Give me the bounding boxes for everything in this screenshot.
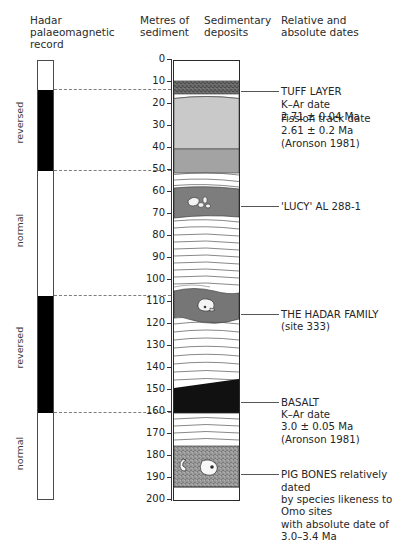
sediment-column bbox=[173, 60, 240, 501]
strata-graphic bbox=[174, 61, 239, 500]
polarity-label-normal-3: normal bbox=[2, 448, 36, 459]
leader-line-tuff-layer bbox=[241, 91, 279, 92]
header-metres: Metres of sediment bbox=[140, 14, 202, 38]
tick-label: 100 bbox=[146, 273, 165, 284]
header-palaeomagnetic: Hadar palaeomagnetic record bbox=[30, 14, 135, 51]
tick-label: 120 bbox=[146, 317, 165, 328]
header-sedimentary: Sedimentary deposits bbox=[204, 14, 274, 38]
polarity-label-reversed-0: reversed bbox=[2, 121, 36, 132]
tick-label: 40 bbox=[152, 141, 165, 152]
annotation-basalt: BASALT K–Ar date 3.0 ± 0.05 Ma (Aronson … bbox=[281, 397, 411, 447]
polarity-band-reversed bbox=[38, 90, 53, 171]
leader-line-basalt bbox=[241, 402, 279, 403]
header-dates: Relative and absolute dates bbox=[281, 14, 406, 38]
tick-label: 110 bbox=[146, 295, 165, 306]
tick-label: 140 bbox=[146, 361, 165, 372]
tick-label: 130 bbox=[146, 339, 165, 350]
tick-label: 160 bbox=[146, 405, 165, 416]
tick-label: 80 bbox=[152, 229, 165, 240]
tick-label: 200 bbox=[146, 493, 165, 504]
leader-line-hadar-family bbox=[241, 314, 279, 315]
tick-label: 170 bbox=[146, 427, 165, 438]
tick-label: 0 bbox=[159, 53, 165, 64]
tick-label: 30 bbox=[152, 119, 165, 130]
polarity-band-reversed bbox=[38, 296, 53, 413]
leader-line-lucy bbox=[241, 206, 279, 207]
tick-label: 150 bbox=[146, 383, 165, 394]
annotation-lucy: 'LUCY' AL 288-1 bbox=[281, 201, 411, 213]
leader-line-pig-bones bbox=[241, 474, 279, 475]
depth-axis-line bbox=[171, 60, 172, 501]
tick-label: 90 bbox=[152, 251, 165, 262]
annotation-pig-bones: PIG BONES relatively dated by species li… bbox=[281, 469, 411, 543]
palaeomagnetic-column bbox=[37, 60, 54, 500]
tick-label: 70 bbox=[152, 207, 165, 218]
annotation-hadar-family: THE HADAR FAMILY (site 333) bbox=[281, 309, 411, 334]
tick-label: 50 bbox=[152, 163, 165, 174]
tick-label: 180 bbox=[146, 449, 165, 460]
annotation-fission-track: Fission track date 2.61 ± 0.2 Ma (Aronso… bbox=[281, 113, 411, 150]
polarity-label-reversed-2: reversed bbox=[2, 346, 36, 357]
tick-label: 190 bbox=[146, 471, 165, 482]
tick-label: 20 bbox=[152, 97, 165, 108]
tick-label: 10 bbox=[152, 75, 165, 86]
depth-scale: 0102030405060708090100110120130140150160… bbox=[140, 60, 172, 501]
polarity-label-normal-1: normal bbox=[2, 225, 36, 236]
tick-label: 60 bbox=[152, 185, 165, 196]
